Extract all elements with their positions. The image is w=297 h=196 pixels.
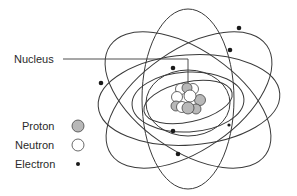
electron-particle [176,152,181,157]
electrons [99,26,242,157]
electron-particle [228,48,233,53]
legend-symbols [72,120,84,166]
legend-electron-symbol [76,162,80,166]
electron-particle [237,26,242,31]
nucleus-label: Nucleus [14,53,54,65]
electron-particle [99,81,104,86]
legend-proton-label: Proton [22,120,54,132]
legend-electron-label: Electron [15,158,55,170]
legend-proton-symbol [72,120,84,132]
nucleus-leader-line [63,59,188,85]
legend-neutron-label: Neutron [15,139,54,151]
neutron-particle [184,90,196,102]
legend-neutron-symbol [72,139,84,151]
electron-particle [227,123,230,126]
electron-particle [171,66,176,71]
proton-particle [182,102,194,114]
electron-particle [171,129,176,134]
nucleus [171,83,206,114]
